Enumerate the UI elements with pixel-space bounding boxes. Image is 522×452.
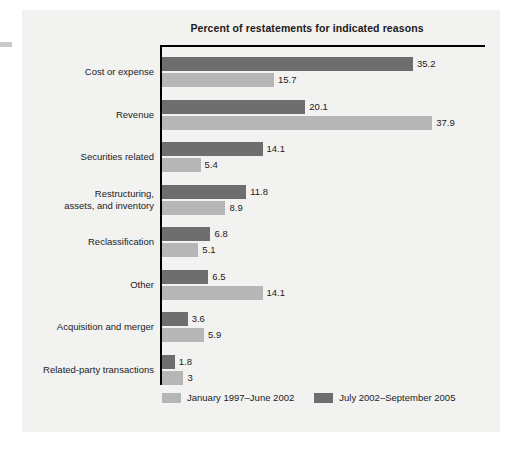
bar	[162, 227, 210, 241]
bar	[162, 201, 225, 215]
bar-group: Securities related14.15.4	[162, 142, 485, 172]
bar	[162, 142, 263, 156]
plot-area: Cost or expense35.215.7Revenue20.137.9Se…	[162, 47, 485, 385]
bar-chart-figure: Percent of restatements for indicated re…	[0, 0, 522, 452]
bar-group: Related-party transactions1.83	[162, 355, 485, 385]
legend-label: January 1997–June 2002	[187, 392, 294, 403]
legend-swatch	[162, 393, 181, 403]
bar	[162, 185, 246, 199]
category-label: Restructuring, assets, and inventory	[0, 188, 154, 211]
bar	[162, 312, 188, 326]
bar	[162, 57, 413, 71]
category-label: Acquisition and merger	[0, 321, 154, 333]
bar	[162, 270, 208, 284]
bar-group: Restructuring, assets, and inventory11.8…	[162, 185, 485, 215]
bar-group: Other6.514.1	[162, 270, 485, 300]
category-label: Other	[0, 279, 154, 291]
bar	[162, 355, 175, 369]
bar-value-label: 14.1	[267, 286, 286, 300]
bar	[162, 243, 198, 257]
bar-value-label: 11.8	[250, 185, 268, 199]
bar	[162, 328, 204, 342]
bar-group: Acquisition and merger3.65.9	[162, 312, 485, 342]
legend-label: July 2002–September 2005	[339, 392, 455, 403]
bar-value-label: 5.9	[208, 328, 221, 342]
legend-item: January 1997–June 2002	[162, 392, 294, 403]
bar-group: Revenue20.137.9	[162, 100, 485, 130]
bar-value-label: 3	[187, 371, 192, 385]
bar-value-label: 6.5	[212, 270, 225, 284]
bar	[162, 73, 274, 87]
bar-value-label: 3.6	[192, 312, 205, 326]
legend-swatch	[314, 393, 333, 403]
bar	[162, 100, 305, 114]
bar-value-label: 15.7	[278, 73, 297, 87]
bar-value-label: 6.8	[214, 227, 227, 241]
category-label: Related-party transactions	[0, 364, 154, 376]
bar	[162, 286, 263, 300]
bar-group: Cost or expense35.215.7	[162, 57, 485, 87]
chart-legend: January 1997–June 2002July 2002–Septembe…	[162, 392, 455, 403]
bar-value-label: 14.1	[267, 142, 286, 156]
bar-value-label: 20.1	[309, 100, 328, 114]
category-label: Reclassification	[0, 236, 154, 248]
bar-group: Reclassification6.85.1	[162, 227, 485, 257]
bar-value-label: 35.2	[417, 57, 436, 71]
bar-value-label: 5.4	[205, 158, 218, 172]
bar-value-label: 1.8	[179, 355, 192, 369]
category-label: Securities related	[0, 151, 154, 163]
bar	[162, 371, 183, 385]
category-label: Cost or expense	[0, 66, 154, 78]
legend-item: July 2002–September 2005	[314, 392, 455, 403]
bar-value-label: 8.9	[229, 201, 242, 215]
bar	[162, 116, 432, 130]
bar-value-label: 5.1	[202, 243, 215, 257]
category-label: Revenue	[0, 109, 154, 121]
chart-title: Percent of restatements for indicated re…	[162, 22, 452, 34]
bar-value-label: 37.9	[436, 116, 455, 130]
bar	[162, 158, 201, 172]
